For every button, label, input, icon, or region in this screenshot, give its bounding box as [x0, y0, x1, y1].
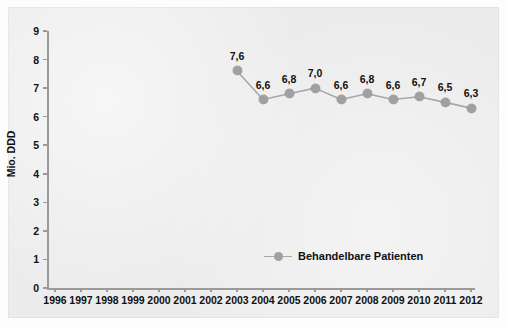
x-axis-line	[47, 288, 475, 290]
y-axis-title: Mio. DDD	[5, 124, 17, 184]
data-point-marker	[285, 89, 294, 98]
data-point-label: 7,6	[217, 51, 257, 62]
data-point-label: 7,0	[295, 68, 335, 79]
data-point-marker	[389, 95, 398, 104]
data-point-marker	[259, 95, 268, 104]
x-tick	[418, 288, 420, 292]
y-tick-label: 4	[21, 169, 39, 180]
x-tick	[366, 288, 368, 292]
y-tick-label: 5	[21, 140, 39, 151]
y-tick	[43, 87, 47, 89]
data-point-marker	[363, 89, 372, 98]
data-point-marker	[233, 66, 242, 75]
y-tick	[43, 30, 47, 32]
x-tick	[444, 288, 446, 292]
series-line	[0, 0, 507, 328]
y-tick-label: 2	[21, 226, 39, 237]
x-tick	[236, 288, 238, 292]
x-tick	[392, 288, 394, 292]
y-tick-label: 0	[21, 283, 39, 294]
y-tick-label: 7	[21, 83, 39, 94]
y-tick	[43, 144, 47, 146]
y-tick	[43, 116, 47, 118]
y-tick	[43, 202, 47, 204]
y-tick	[43, 287, 47, 289]
y-tick-label: 3	[21, 197, 39, 208]
data-point-marker	[415, 92, 424, 101]
data-point-marker	[441, 98, 450, 107]
x-tick	[80, 288, 82, 292]
x-tick	[314, 288, 316, 292]
chart-legend: Behandelbare Patienten	[264, 250, 423, 262]
x-tick	[184, 288, 186, 292]
data-point-marker	[311, 84, 320, 93]
x-tick	[54, 288, 56, 292]
x-tick-label: 2012	[451, 295, 491, 307]
data-point-label: 6,3	[451, 88, 491, 99]
legend-marker-icon	[264, 252, 292, 261]
x-tick	[470, 288, 472, 292]
chart-page: Mio. DDD 9876543210 19961997199819992000…	[0, 0, 507, 328]
x-tick	[210, 288, 212, 292]
y-tick	[43, 59, 47, 61]
x-tick	[158, 288, 160, 292]
y-tick-label: 9	[21, 26, 39, 37]
x-tick	[262, 288, 264, 292]
y-tick	[43, 173, 47, 175]
y-tick-label: 8	[21, 55, 39, 66]
y-axis-line	[47, 31, 49, 289]
data-point-marker	[467, 104, 476, 113]
x-tick	[132, 288, 134, 292]
x-tick	[288, 288, 290, 292]
x-tick	[340, 288, 342, 292]
y-tick-label: 1	[21, 254, 39, 265]
y-tick	[43, 259, 47, 261]
y-tick-label: 6	[21, 112, 39, 123]
legend-item-label: Behandelbare Patienten	[298, 250, 423, 262]
plot-area: Mio. DDD 9876543210 19961997199819992000…	[0, 0, 507, 328]
data-point-marker	[337, 95, 346, 104]
x-tick	[106, 288, 108, 292]
y-tick	[43, 230, 47, 232]
